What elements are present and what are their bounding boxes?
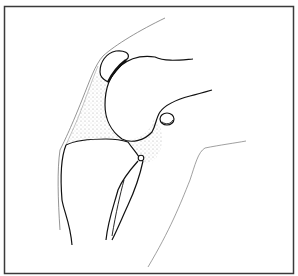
knee-illustration — [0, 0, 298, 276]
fabella — [160, 113, 174, 125]
fibula-head — [138, 155, 144, 161]
anatomical-figure — [0, 0, 298, 276]
